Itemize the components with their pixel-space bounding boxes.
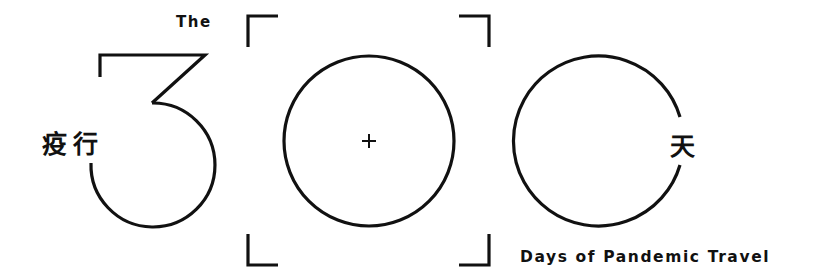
- bracket-bottom-left: [248, 234, 278, 265]
- bracket-top-left: [248, 16, 278, 47]
- logo-chinese-left: 疫行: [42, 124, 104, 160]
- crosshair-icon: [362, 134, 376, 148]
- logo-subtitle: Days of Pandemic Travel: [520, 248, 770, 266]
- digit-zero-open: [513, 56, 680, 226]
- logo-chinese-right: 天: [670, 126, 695, 162]
- logo-prefix-the: The: [176, 13, 212, 31]
- bracket-bottom-right: [459, 234, 489, 265]
- logo-graphic: [0, 0, 818, 277]
- bracket-top-right: [459, 16, 489, 47]
- digit-three: [91, 55, 215, 227]
